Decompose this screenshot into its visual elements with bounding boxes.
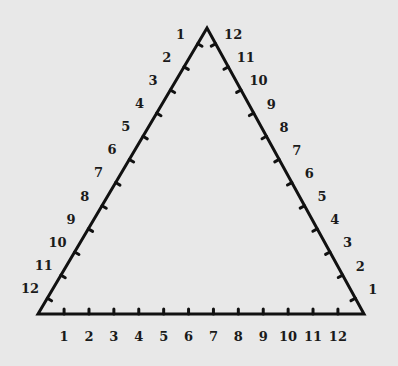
- left-side-label: 2: [162, 50, 171, 63]
- left-side-label: 11: [35, 258, 53, 271]
- left-side-label: 7: [94, 166, 103, 179]
- bottom-side-label: 5: [159, 330, 168, 343]
- right-side-tick: [262, 136, 266, 138]
- left-side-tick: [157, 113, 161, 116]
- right-side-label: 6: [305, 166, 314, 179]
- left-side-label: 12: [21, 282, 39, 295]
- bottom-side-label: 4: [134, 330, 143, 343]
- bottom-side-label: 9: [259, 330, 268, 343]
- right-side-tick: [287, 183, 291, 185]
- left-side-tick: [129, 159, 133, 162]
- right-side-tick: [300, 206, 304, 208]
- left-side-label: 10: [48, 235, 66, 248]
- triangle-outline: [38, 28, 364, 314]
- left-side-tick: [170, 90, 174, 93]
- right-side-label: 5: [318, 190, 327, 203]
- bottom-side-label: 10: [279, 330, 297, 343]
- left-side-label: 4: [135, 96, 144, 109]
- bottom-side-label: 12: [329, 330, 347, 343]
- left-side-tick: [184, 67, 188, 70]
- left-side-tick: [143, 136, 147, 139]
- right-side-label: 9: [267, 97, 276, 110]
- right-side-label: 4: [330, 213, 339, 226]
- left-side-tick: [61, 275, 65, 278]
- left-side-tick: [75, 252, 79, 255]
- bottom-side-label: 3: [109, 330, 118, 343]
- bottom-side-label: 7: [209, 330, 218, 343]
- left-side-label: 5: [121, 120, 130, 133]
- right-side-tick: [351, 298, 355, 300]
- bottom-side-label: 2: [84, 330, 93, 343]
- left-side-label: 6: [108, 143, 117, 156]
- left-side-label: 1: [176, 27, 185, 40]
- right-side-tick: [326, 252, 330, 254]
- left-side-tick: [116, 183, 120, 186]
- right-side-label: 8: [279, 120, 288, 133]
- right-side-tick: [338, 275, 342, 277]
- right-side-label: 3: [343, 236, 352, 249]
- right-side-tick: [313, 229, 317, 231]
- right-side-tick: [249, 113, 253, 115]
- bottom-side-label: 1: [60, 330, 69, 343]
- right-side-label: 7: [292, 143, 301, 156]
- bottom-side-label: 6: [184, 330, 193, 343]
- left-side-tick: [198, 44, 202, 47]
- right-side-tick: [275, 159, 279, 161]
- right-side-tick: [224, 67, 228, 69]
- left-side-label: 9: [67, 212, 76, 225]
- bottom-side-label: 11: [304, 330, 322, 343]
- right-side-label: 12: [224, 28, 242, 41]
- left-side-tick: [102, 206, 106, 209]
- left-side-tick: [88, 229, 92, 232]
- right-side-tick: [237, 90, 241, 92]
- triangle-figure: [0, 0, 398, 366]
- left-side-label: 8: [80, 189, 89, 202]
- right-side-label: 11: [237, 51, 255, 64]
- left-side-tick: [47, 298, 51, 301]
- bottom-side-label: 8: [234, 330, 243, 343]
- right-side-label: 1: [368, 282, 377, 295]
- left-side-label: 3: [149, 73, 158, 86]
- right-side-tick: [211, 44, 215, 46]
- triangle-diagram: 1234567891011121211109876543211234567891…: [0, 0, 398, 366]
- right-side-label: 2: [356, 259, 365, 272]
- right-side-label: 10: [250, 74, 268, 87]
